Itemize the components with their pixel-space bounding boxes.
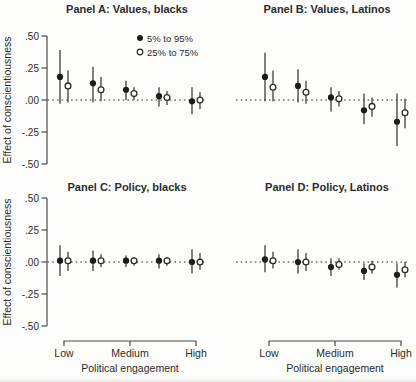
data-point-open <box>197 97 203 103</box>
data-point-open <box>131 258 137 264</box>
y-axis-title: Effect of conscientiousness <box>1 198 13 325</box>
data-point-filled <box>156 258 162 264</box>
data-point-filled <box>156 93 162 99</box>
data-point-filled <box>123 87 129 93</box>
data-point-filled <box>90 80 96 86</box>
y-tick-label: .50 <box>25 193 39 204</box>
data-point-open <box>164 95 170 101</box>
x-tick-label: Low <box>54 347 74 359</box>
data-point-open <box>131 91 137 97</box>
figure-canvas: Panel A: Values, blacks.50.25.00-.25-.50… <box>0 0 416 382</box>
panel-title: Panel C: Policy, blacks <box>67 181 186 193</box>
data-point-open <box>369 264 375 270</box>
data-point-filled <box>262 256 268 262</box>
legend-filled-circle-icon <box>137 35 143 41</box>
x-tick-label: High <box>185 347 207 359</box>
y-tick-label: -.50 <box>22 321 40 332</box>
y-tick-label: -.25 <box>22 289 40 300</box>
x-tick-label: Medium <box>111 347 149 359</box>
data-point-filled <box>361 268 367 274</box>
data-point-open <box>270 258 276 264</box>
data-point-open <box>369 104 375 110</box>
legend-label: 5% to 95% <box>147 33 193 44</box>
data-point-open <box>65 83 71 89</box>
y-tick-label: .00 <box>25 95 39 106</box>
data-point-open <box>402 267 408 273</box>
data-point-filled <box>295 259 301 265</box>
panel-title: Panel B: Values, Latinos <box>263 3 390 15</box>
data-point-filled <box>394 272 400 278</box>
x-tick-label: High <box>390 347 412 359</box>
data-point-open <box>98 258 104 264</box>
legend-label: 25% to 75% <box>147 47 199 58</box>
data-point-open <box>197 259 203 265</box>
data-point-filled <box>328 94 334 100</box>
x-axis-title: Political engagement <box>286 362 384 374</box>
legend-open-circle-icon <box>137 49 143 55</box>
y-axis-title: Effect of conscientiousness <box>1 36 13 163</box>
data-point-filled <box>123 258 129 264</box>
data-point-open <box>336 262 342 268</box>
data-point-open <box>303 89 309 95</box>
data-point-filled <box>394 119 400 125</box>
data-point-filled <box>295 83 301 89</box>
y-tick-label: .25 <box>25 63 39 74</box>
data-point-filled <box>328 264 334 270</box>
data-point-filled <box>361 107 367 113</box>
data-point-filled <box>57 258 63 264</box>
panel-title: Panel D: Policy, Latinos <box>265 181 389 193</box>
x-axis-title: Political engagement <box>81 362 179 374</box>
data-point-filled <box>262 74 268 80</box>
figure: Panel A: Values, blacks.50.25.00-.25-.50… <box>0 0 416 382</box>
data-point-open <box>164 258 170 264</box>
y-tick-label: .00 <box>25 257 39 268</box>
data-point-filled <box>57 74 63 80</box>
data-point-open <box>402 110 408 116</box>
scan-shadow <box>0 374 416 382</box>
y-tick-label: -.50 <box>22 159 40 170</box>
x-tick-label: Medium <box>316 347 354 359</box>
y-tick-label: .50 <box>25 31 39 42</box>
y-tick-label: .25 <box>25 225 39 236</box>
panel-title: Panel A: Values, blacks <box>66 3 188 15</box>
data-point-filled <box>189 259 195 265</box>
data-point-open <box>270 84 276 90</box>
data-point-filled <box>189 98 195 104</box>
y-tick-label: -.25 <box>22 127 40 138</box>
data-point-open <box>336 96 342 102</box>
data-point-open <box>98 87 104 93</box>
data-point-filled <box>90 258 96 264</box>
data-point-open <box>65 258 71 264</box>
x-tick-label: Low <box>259 347 279 359</box>
data-point-open <box>303 259 309 265</box>
